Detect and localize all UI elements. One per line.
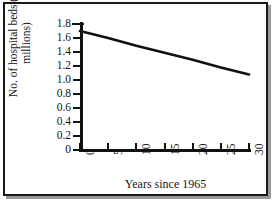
chart-figure: 00.20.40.60.81.01.21.41.61.8 05101520253… [0, 0, 274, 210]
data-series-line [80, 31, 249, 74]
plot-area [0, 0, 274, 210]
